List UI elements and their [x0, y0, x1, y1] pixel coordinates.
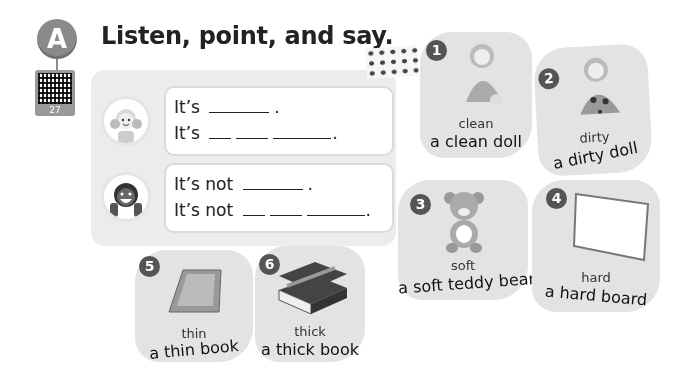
thick-book-icon [277, 260, 349, 316]
answer-blank[interactable] [243, 199, 265, 216]
prompt-period: . [332, 123, 337, 143]
prompt-prefix: It’s not [174, 174, 233, 194]
card-number: 2 [538, 68, 560, 90]
boy-speech-bubble: It’s not . It’s not . [164, 163, 394, 233]
whiteboard-icon [572, 192, 652, 262]
card-number: 4 [546, 188, 567, 209]
card-thick-book[interactable]: 6 thick a thick book [255, 246, 365, 362]
prompt-line-3: It’s not . [166, 165, 392, 197]
dirty-doll-icon [569, 52, 628, 123]
section-badge: A [37, 19, 77, 59]
card-phrase: a soft teddy bear [397, 269, 528, 297]
answer-blank[interactable] [307, 199, 365, 216]
clean-doll-icon [456, 40, 512, 108]
answer-blank[interactable] [236, 122, 268, 139]
page-title: Listen, point, and say. [101, 22, 393, 50]
card-number: 1 [426, 40, 447, 61]
thin-book-icon [167, 268, 223, 316]
prompt-prefix: It’s [174, 123, 200, 143]
prompt-line-2: It’s . [166, 120, 392, 146]
card-phrase: a thick book [255, 340, 365, 359]
card-number: 5 [139, 256, 160, 277]
card-adjective: clean [420, 116, 532, 131]
answer-blank[interactable] [270, 199, 302, 216]
answer-blank[interactable] [273, 122, 331, 139]
prompt-period: . [274, 97, 279, 117]
boy-avatar [101, 172, 151, 222]
prompt-period: . [366, 200, 371, 220]
qr-track-number: 27 [35, 105, 75, 116]
card-number: 3 [410, 194, 431, 215]
answer-blank[interactable] [209, 122, 231, 139]
card-phrase: a clean doll [420, 132, 532, 151]
prompt-prefix: It’s [174, 97, 200, 117]
answer-blank[interactable] [243, 173, 303, 190]
girl-avatar [101, 96, 151, 146]
polka-dot-tape-icon [365, 45, 419, 79]
card-adjective: thick [255, 324, 365, 339]
card-hard-board[interactable]: 4 hard a hard board [532, 180, 660, 312]
teddy-bear-icon [440, 188, 490, 254]
girl-speech-bubble: It’s . It’s . [164, 86, 394, 156]
answer-blank[interactable] [209, 96, 269, 113]
qr-code[interactable]: 27 [35, 70, 75, 116]
card-soft-teddy-bear[interactable]: 3 soft a soft teddy bear [398, 180, 528, 300]
prompt-prefix: It’s not [174, 200, 233, 220]
prompt-period: . [308, 174, 313, 194]
card-thin-book[interactable]: 5 thin a thin book [135, 250, 253, 362]
prompt-line-1: It’s . [166, 88, 392, 120]
prompt-line-4: It’s not . [166, 197, 392, 223]
card-clean-doll[interactable]: 1 clean a clean doll [420, 32, 532, 158]
qr-code-icon [38, 73, 72, 104]
card-dirty-doll[interactable]: 2 dirty a dirty doll [533, 43, 654, 177]
